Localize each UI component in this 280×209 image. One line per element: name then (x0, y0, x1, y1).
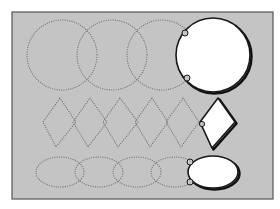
cutout-ellipse (188, 156, 238, 188)
notch (182, 30, 188, 36)
shape-tracing-diagram (0, 0, 280, 209)
notch (199, 121, 204, 126)
notch (187, 159, 193, 165)
notch (187, 179, 193, 185)
notch (184, 75, 190, 81)
